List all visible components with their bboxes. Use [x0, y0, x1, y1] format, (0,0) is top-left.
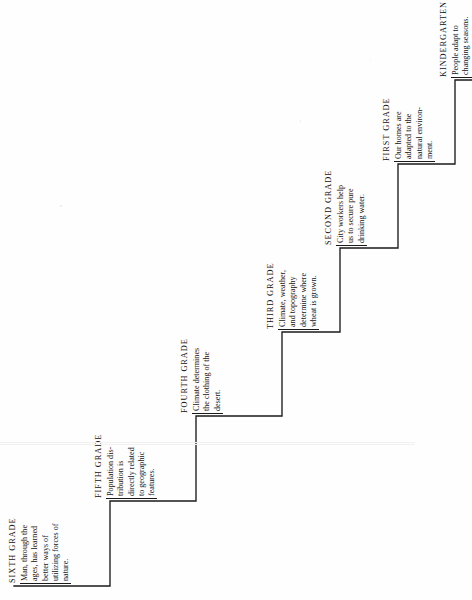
- step-body: People adapt to changing seasons.: [451, 0, 471, 78]
- step-heading: THIRD GRADE: [266, 231, 275, 330]
- step-body: Our homes are adapted to the natural env…: [394, 63, 435, 162]
- step-heading: FIFTH GRADE: [94, 400, 103, 499]
- step-heading: FIRST GRADE: [382, 63, 391, 162]
- step-second-grade: SECOND GRADE City workers help us to sec…: [324, 147, 367, 246]
- step-body: Climate determines the clothing of the d…: [192, 315, 223, 414]
- step-heading: SECOND GRADE: [324, 147, 333, 246]
- step-heading: FOURTH GRADE: [180, 315, 189, 414]
- step-fifth-grade: FIFTH GRADE Population dis- tribution is…: [94, 400, 157, 499]
- step-third-grade: THIRD GRADE Climate, weather, and topogr…: [266, 231, 319, 330]
- step-heading: KINDERGARTEN: [439, 0, 448, 78]
- step-body: Man, through the ages, has learned bette…: [20, 485, 71, 584]
- step-heading: SIXTH GRADE: [8, 485, 17, 584]
- step-body: City workers help us to secure pure drin…: [336, 147, 367, 246]
- step-body: Climate, weather, and topography determi…: [278, 231, 319, 330]
- step-sixth-grade: SIXTH GRADE Man, through the ages, has l…: [8, 485, 71, 584]
- step-body: Population dis- tribution is directly re…: [106, 400, 157, 499]
- step-kindergarten: KINDERGARTEN People adapt to changing se…: [439, 0, 472, 78]
- step-fourth-grade: FOURTH GRADE Climate determines the clot…: [180, 315, 223, 414]
- step-first-grade: FIRST GRADE Our homes are adapted to the…: [382, 63, 435, 162]
